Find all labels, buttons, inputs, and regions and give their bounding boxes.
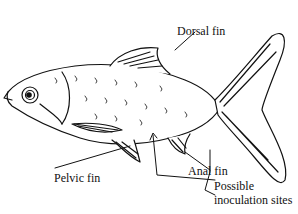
label-inoculation-line1: Possible (214, 180, 254, 193)
label-inoculation-line2: inoculation sites (214, 194, 292, 207)
label-pelvic-fin: Pelvic fin (54, 172, 100, 185)
label-anal-fin: Anal fin (188, 165, 228, 178)
fish-diagram: Dorsal fin Pelvic fin Anal fin Possible … (0, 0, 298, 214)
label-dorsal-fin: Dorsal fin (177, 25, 225, 38)
